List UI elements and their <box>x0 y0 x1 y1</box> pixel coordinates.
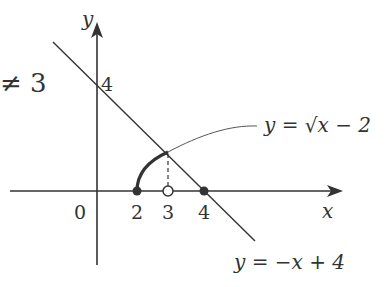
x-tick-3: 3 <box>162 201 174 223</box>
y-tick-4: 4 <box>101 73 113 95</box>
y-axis-label: y <box>81 7 94 31</box>
sqrt-curve-thick <box>137 152 168 191</box>
graph: y x 0 4 2 3 4 ≠ 3 y = √x − 2 y = −x + 4 <box>0 0 389 287</box>
x-tick-2: 2 <box>131 201 143 223</box>
line-label: y = −x + 4 <box>233 250 345 274</box>
open-point-3 <box>163 186 173 196</box>
closed-point-4 <box>200 187 209 196</box>
closed-point-2 <box>133 187 142 196</box>
side-text: ≠ 3 <box>0 68 47 98</box>
leader-line <box>168 126 257 152</box>
origin-label: 0 <box>74 201 86 223</box>
x-tick-4: 4 <box>198 201 210 223</box>
x-axis-label: x <box>322 199 333 223</box>
sqrt-curve-label: y = √x − 2 <box>263 113 371 137</box>
